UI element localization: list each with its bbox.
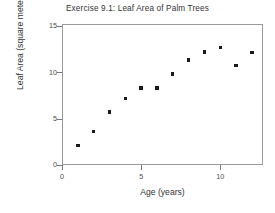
y-tick-label: 15: [31, 22, 57, 29]
scatter-data-layer: [62, 24, 263, 165]
chart-title: Exercise 9.1: Leaf Area of Palm Trees: [0, 4, 275, 13]
data-point: [234, 64, 237, 67]
x-tick-label: 10: [208, 173, 232, 180]
y-tick-label: 10: [31, 69, 57, 76]
data-point: [187, 58, 190, 61]
data-point: [76, 144, 79, 147]
data-point: [250, 51, 253, 54]
data-point: [92, 130, 95, 133]
data-point: [219, 46, 222, 49]
x-tick-mark: [141, 165, 142, 170]
x-tick-mark: [220, 165, 221, 170]
x-tick-label: 0: [50, 173, 74, 180]
data-point: [203, 50, 206, 53]
data-point: [139, 86, 142, 89]
data-point: [171, 72, 174, 75]
x-tick-label: 5: [129, 173, 153, 180]
x-axis-label: Age (years): [62, 187, 263, 197]
chart-figure: Exercise 9.1: Leaf Area of Palm Trees 05…: [0, 0, 275, 213]
y-tick-label: 0: [31, 161, 57, 168]
y-tick-label: 5: [31, 115, 57, 122]
x-tick-mark: [62, 165, 63, 170]
data-point: [124, 97, 127, 100]
data-point: [108, 110, 111, 113]
y-axis-label: Leaf Area (square meters): [15, 0, 25, 110]
data-point: [155, 86, 158, 89]
